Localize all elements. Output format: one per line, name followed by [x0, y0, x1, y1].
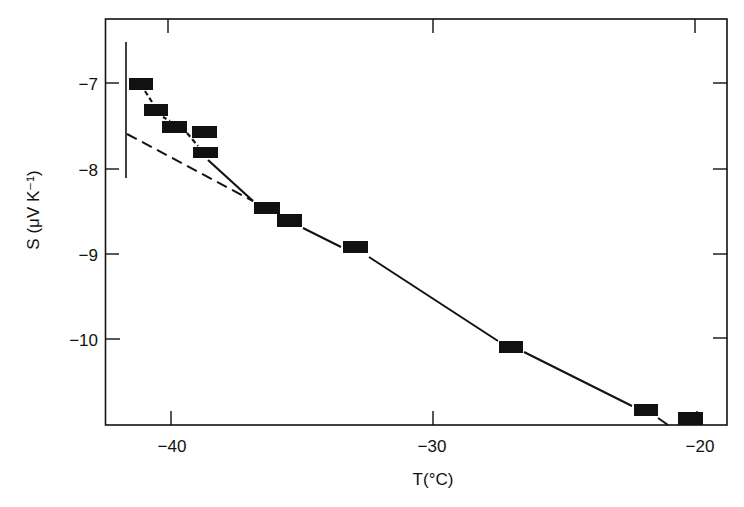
- data-point: [254, 202, 280, 214]
- data-point: [129, 78, 153, 90]
- data-point: [678, 412, 703, 425]
- x-tick-label: −20: [686, 437, 715, 456]
- dashed-extrapolation-line: [127, 134, 253, 201]
- seebeck-chart: −7 −8 −9 −10 −40 −30 −20 T(°C) S (μV K⁻¹…: [0, 0, 744, 507]
- data-markers: [129, 78, 703, 425]
- y-ticks-left: [106, 83, 120, 339]
- y-tick-label: −10: [69, 331, 98, 350]
- data-point: [144, 104, 168, 116]
- y-axis-label: S (μV K⁻¹): [24, 170, 43, 249]
- data-point: [499, 341, 523, 353]
- y-ticks-right: [713, 83, 727, 338]
- data-point: [192, 126, 217, 138]
- data-point: [193, 147, 218, 158]
- y-tick-label: −9: [79, 246, 98, 265]
- data-point: [162, 121, 187, 133]
- data-point: [277, 214, 302, 227]
- data-point: [634, 404, 658, 416]
- data-point: [343, 241, 368, 253]
- plot-frame: [106, 19, 728, 425]
- solid-fit-line: [303, 228, 668, 425]
- x-tick-label: −30: [418, 437, 447, 456]
- y-tick-label: −8: [79, 161, 98, 180]
- y-tick-label: −7: [79, 75, 98, 94]
- x-ticks-top: [168, 19, 695, 33]
- x-ticks-bottom: [171, 411, 697, 425]
- x-tick-label: −40: [158, 437, 187, 456]
- x-axis-label: T(°C): [413, 470, 454, 489]
